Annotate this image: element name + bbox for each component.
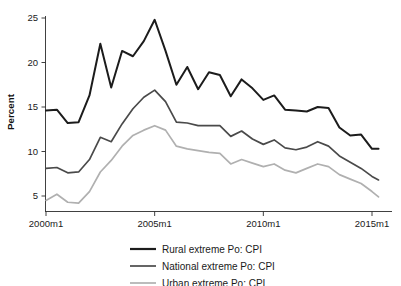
x-tick-label: 2000m1	[29, 218, 63, 229]
x-axis: 2000m12005m12010m12015m1	[29, 212, 392, 230]
y-tick-label: 25	[27, 12, 38, 23]
legend-label: National extreme Po: CPI	[162, 261, 275, 272]
y-tick-label: 5	[33, 190, 38, 201]
line-chart-canvas: 510152025 2000m12005m12010m12015m1 Perce…	[0, 0, 401, 286]
x-tick-label: 2005m1	[137, 218, 171, 229]
y-axis-title: Percent	[5, 93, 16, 130]
legend-label: Rural extreme Po: CPI	[162, 244, 262, 255]
chart-legend: Rural extreme Po: CPINational extreme Po…	[130, 244, 275, 286]
x-tick-group: 2000m12005m12010m12015m1	[29, 212, 389, 230]
y-tick-group: 510152025	[27, 12, 45, 201]
x-tick-label: 2010m1	[246, 218, 280, 229]
chart-figure: 510152025 2000m12005m12010m12015m1 Perce…	[0, 0, 401, 286]
y-axis: 510152025	[27, 12, 45, 212]
y-tick-label: 15	[27, 101, 38, 112]
legend-label: Urban extreme Po: CPI	[162, 278, 265, 286]
y-tick-label: 20	[27, 57, 38, 68]
series-line	[46, 20, 379, 149]
series-line	[46, 126, 379, 203]
x-tick-label: 2015m1	[355, 218, 389, 229]
data-series-group	[46, 20, 379, 203]
y-tick-label: 10	[27, 146, 38, 157]
